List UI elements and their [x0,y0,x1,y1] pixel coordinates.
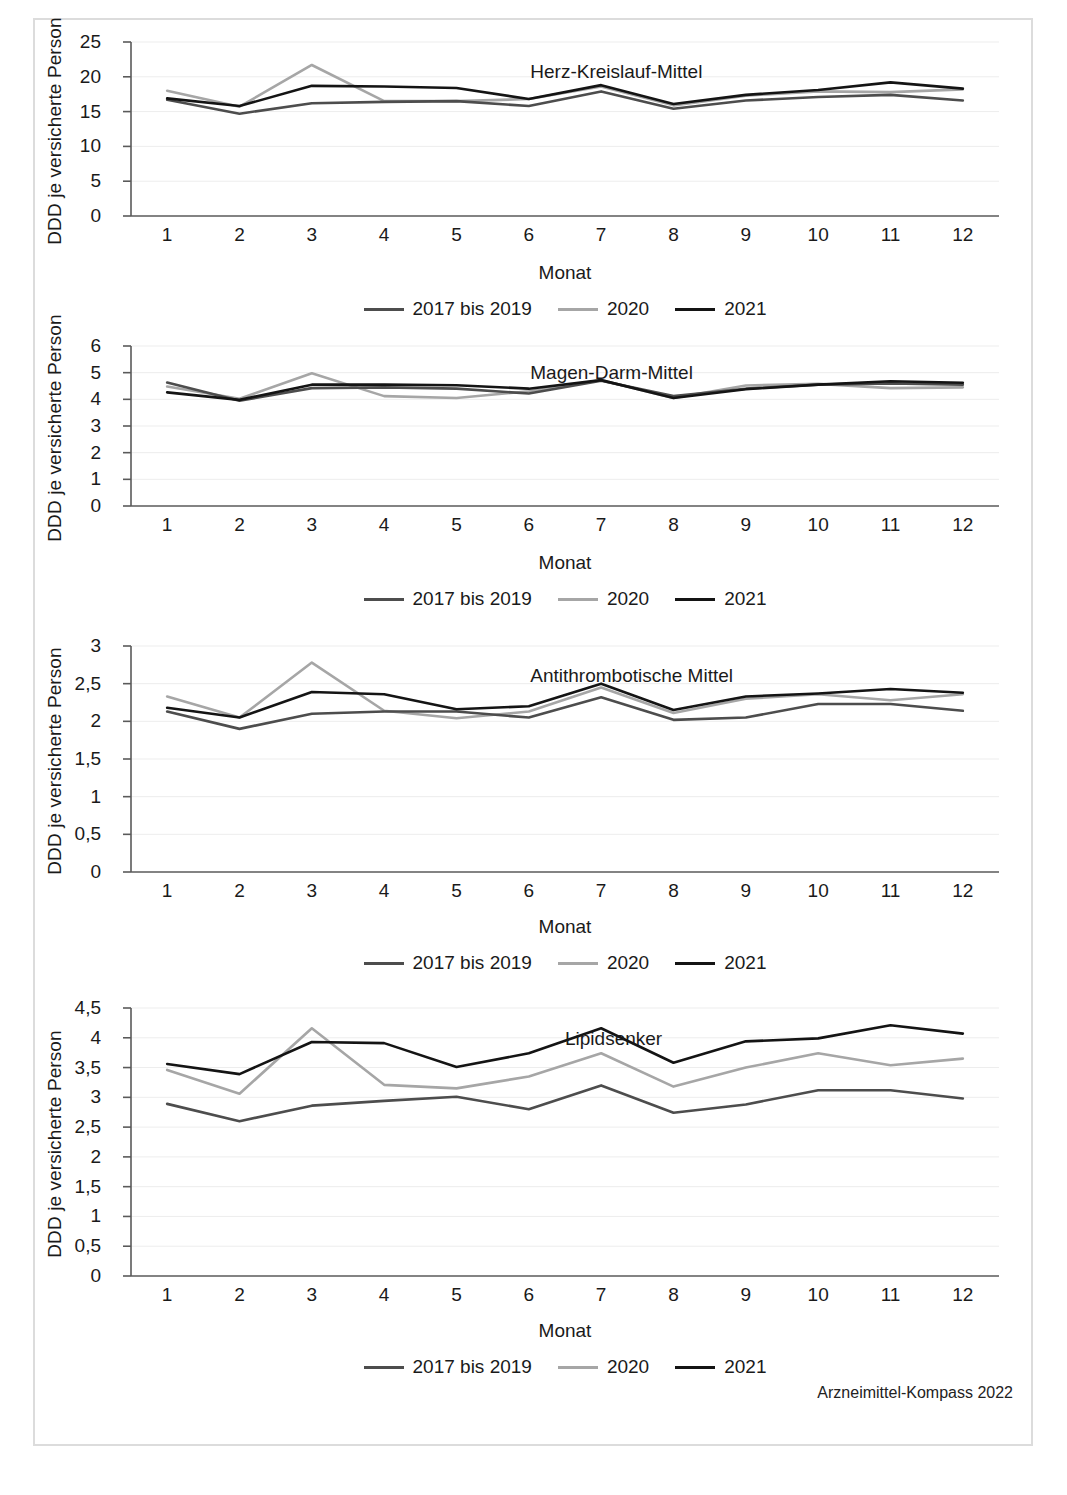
x-tick-label: 9 [741,1284,752,1306]
x-tick-label: 6 [524,224,535,246]
legend-line-icon [364,598,404,601]
x-tick-label: 8 [668,880,679,902]
x-tick-label: 11 [881,224,901,246]
chart-2: DDD je versicherte Person012345612345678… [35,338,1031,536]
legend-item[interactable]: 2017 bis 2019 [364,1356,532,1378]
x-tick-label: 3 [307,224,318,246]
x-tick-label: 6 [524,880,535,902]
x-tick-label: 5 [451,514,462,536]
legend-item[interactable]: 2021 [675,588,766,610]
x-tick-label: 9 [741,224,752,246]
chart-legend: 2017 bis 201920202021 [131,298,999,320]
legend-item[interactable]: 2020 [558,298,649,320]
legend-label: 2017 bis 2019 [413,588,532,610]
x-tick-label: 4 [379,880,390,902]
plot-area: DDD je versicherte Person00,511,522,5312… [35,638,1031,900]
legend-item[interactable]: 2020 [558,1356,649,1378]
legend-label: 2021 [724,588,766,610]
x-tick-label: 8 [668,514,679,536]
legend-line-icon [364,962,404,965]
x-tick-label: 4 [379,514,390,536]
x-tick-label: 1 [162,880,173,902]
legend-item[interactable]: 2017 bis 2019 [364,588,532,610]
x-axis-label: Monat [131,262,999,284]
legend-item[interactable]: 2021 [675,1356,766,1378]
plot-area: DDD je versicherte Person00,511,522,533,… [35,1000,1031,1304]
legend-item[interactable]: 2020 [558,588,649,610]
legend-line-icon [675,962,715,965]
plot-area: DDD je versicherte Person051015202512345… [35,34,1031,246]
x-tick-label: 12 [952,514,973,536]
x-tick-label: 7 [596,514,607,536]
x-tick-label: 10 [808,224,829,246]
x-tick-label: 12 [952,880,973,902]
x-tick-label: 12 [952,1284,973,1306]
x-tick-label: 1 [162,1284,173,1306]
legend-line-icon [558,1366,598,1369]
x-axis-label: Monat [131,1320,999,1342]
chart-title: Antithrombotische Mittel [530,665,733,687]
x-tick-label: 5 [451,880,462,902]
legend-item[interactable]: 2021 [675,298,766,320]
x-tick-label: 7 [596,224,607,246]
series-line [167,82,963,106]
chart-3: DDD je versicherte Person00,511,522,5312… [35,638,1031,900]
x-tick-label: 2 [234,224,245,246]
x-tick-label: 8 [668,224,679,246]
plot-area: DDD je versicherte Person012345612345678… [35,338,1031,536]
x-tick-label: 7 [596,880,607,902]
legend-line-icon [364,1366,404,1369]
x-tick-label: 4 [379,1284,390,1306]
legend-line-icon [675,1366,715,1369]
chart-1: DDD je versicherte Person051015202512345… [35,34,1031,246]
x-axis-label: Monat [131,552,999,574]
legend-line-icon [675,598,715,601]
x-tick-label: 11 [881,514,901,536]
x-tick-label: 5 [451,224,462,246]
chart-4: DDD je versicherte Person00,511,522,533,… [35,1000,1031,1304]
x-tick-label: 8 [668,1284,679,1306]
x-tick-label: 3 [307,880,318,902]
legend-item[interactable]: 2021 [675,952,766,974]
chart-title: Magen-Darm-Mittel [530,362,693,384]
legend-line-icon [675,308,715,311]
figure-frame: DDD je versicherte Person051015202512345… [33,18,1033,1446]
x-tick-label: 9 [741,514,752,536]
chart-legend: 2017 bis 201920202021 [131,588,999,610]
x-tick-label: 10 [808,1284,829,1306]
x-tick-label: 2 [234,514,245,536]
series-line [167,91,963,113]
chart-title: Herz-Kreislauf-Mittel [530,61,702,83]
legend-label: 2017 bis 2019 [413,952,532,974]
legend-label: 2021 [724,952,766,974]
chart-title: Lipidsenker [565,1028,662,1050]
legend-line-icon [558,962,598,965]
x-tick-label: 11 [881,1284,901,1306]
x-tick-label: 5 [451,1284,462,1306]
legend-label: 2017 bis 2019 [413,1356,532,1378]
x-tick-label: 1 [162,224,173,246]
x-tick-label: 2 [234,1284,245,1306]
series-line [167,1085,963,1121]
source-note: Arzneimittel-Kompass 2022 [817,1384,1013,1402]
x-tick-label: 4 [379,224,390,246]
legend-label: 2020 [607,952,649,974]
x-tick-label: 10 [808,880,829,902]
x-tick-label: 3 [307,514,318,536]
legend-item[interactable]: 2017 bis 2019 [364,952,532,974]
legend-label: 2021 [724,1356,766,1378]
legend-label: 2020 [607,298,649,320]
legend-line-icon [558,598,598,601]
legend-item[interactable]: 2017 bis 2019 [364,298,532,320]
x-tick-label: 6 [524,514,535,536]
x-tick-label: 1 [162,514,173,536]
legend-label: 2020 [607,588,649,610]
legend-line-icon [364,308,404,311]
x-tick-label: 12 [952,224,973,246]
x-tick-label: 10 [808,514,829,536]
x-tick-label: 3 [307,1284,318,1306]
x-tick-label: 6 [524,1284,535,1306]
x-tick-label: 11 [881,880,901,902]
legend-item[interactable]: 2020 [558,952,649,974]
legend-line-icon [558,308,598,311]
